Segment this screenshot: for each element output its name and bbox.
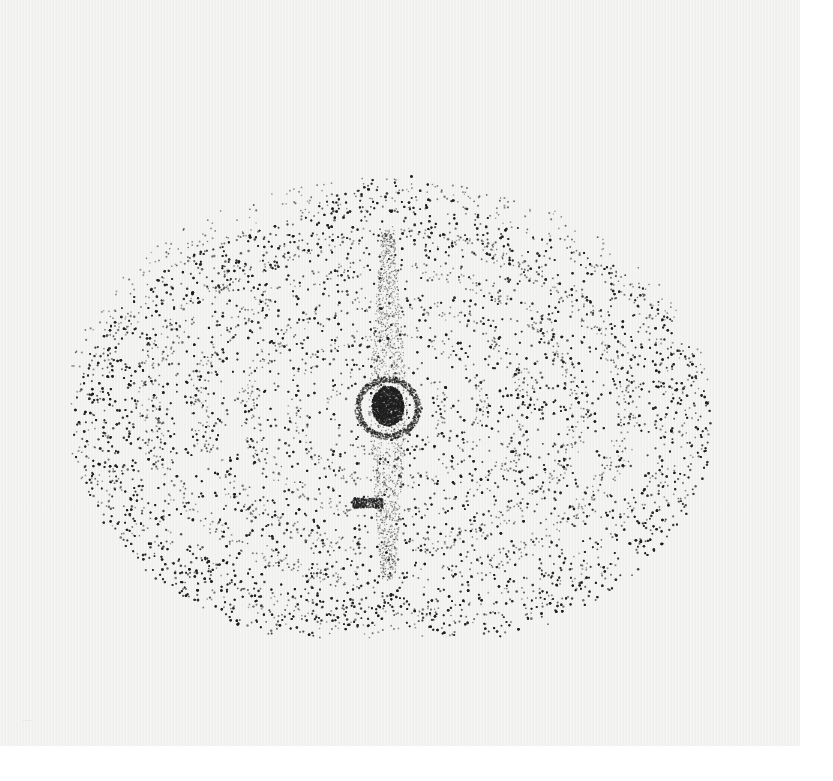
stipple-artwork (0, 0, 833, 781)
artist-signature: ······ (22, 718, 31, 723)
